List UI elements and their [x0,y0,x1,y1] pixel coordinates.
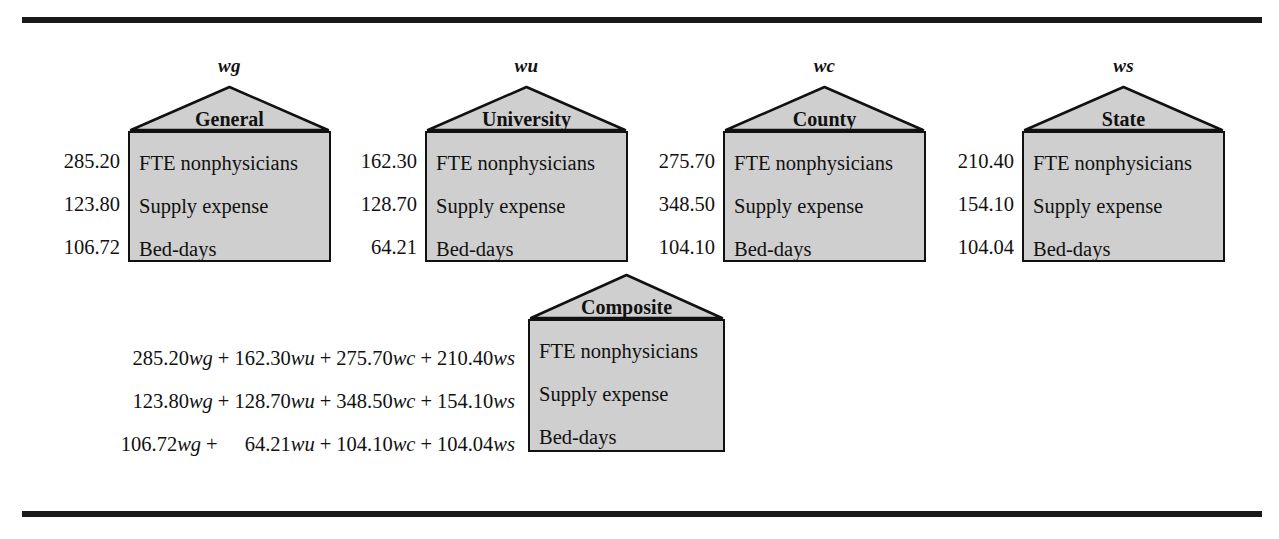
attr-row-beddays: Bed-days [436,228,626,271]
house-body-county: FTE nonphysicians Supply expense Bed-day… [723,131,926,262]
value-fte-general: 285.20 [20,140,120,183]
house-title-university: University [425,108,628,131]
eq-weight: wu [291,433,315,455]
eq-coef: 154.10 [437,390,493,412]
attr-row-beddays: Bed-days [139,228,329,271]
equation-beddays: 106.72wg+64.21wu+104.10wc+104.04ws [60,423,515,466]
eq-weight: ws [493,347,515,369]
value-supply-county: 348.50 [615,183,715,226]
house-general: wg General FTE nonphysicians Supply expe… [128,55,331,262]
figure-top-rule [22,17,1262,23]
attr-row-supply: Supply expense [734,185,924,228]
attr-row-supply: Supply expense [436,185,626,228]
attr-row-beddays: Bed-days [539,416,723,459]
house-state: ws State FTE nonphysicians Supply expens… [1022,55,1225,262]
house-body-general: FTE nonphysicians Supply expense Bed-day… [128,131,331,262]
value-fte-state: 210.40 [914,140,1014,183]
value-fte-university: 162.30 [317,140,417,183]
attr-row-beddays: Bed-days [1033,228,1223,271]
value-beddays-university: 64.21 [317,226,417,269]
value-beddays-general: 106.72 [20,226,120,269]
eq-weight: wg [189,390,213,412]
eq-coef: 348.50 [336,390,392,412]
value-supply-general: 123.80 [20,183,120,226]
eq-coef: 128.70 [234,390,290,412]
attr-row-beddays: Bed-days [734,228,924,271]
eq-coef: 162.30 [234,347,290,369]
eq-operator: + [315,390,337,412]
eq-weight: wc [393,390,416,412]
eq-weight: wu [291,347,315,369]
house-title-general: General [128,108,331,131]
eq-operator: + [201,433,223,455]
figure-bottom-rule [22,511,1262,517]
eq-weight: wg [177,433,201,455]
eq-weight: wu [291,390,315,412]
eq-weight: wc [393,433,416,455]
house-weight-label-wg: wg [128,55,331,77]
attr-row-supply: Supply expense [539,373,723,416]
eq-coef: 285.20 [133,347,189,369]
house-university: wu University FTE nonphysicians Supply e… [425,55,628,262]
value-column-university: 162.30 128.70 64.21 [317,140,417,269]
house-weight-label-ws: ws [1022,55,1225,77]
house-composite: Composite FTE nonphysicians Supply expen… [528,272,725,480]
value-fte-county: 275.70 [615,140,715,183]
attr-row-fte: FTE nonphysicians [436,142,626,185]
house-title-composite: Composite [528,296,725,319]
value-supply-state: 154.10 [914,183,1014,226]
eq-coef: 106.72 [121,433,177,455]
eq-coef: 104.04 [437,433,493,455]
eq-operator: + [415,347,437,369]
value-column-county: 275.70 348.50 104.10 [615,140,715,269]
eq-weight: ws [493,390,515,412]
house-county: wc County FTE nonphysicians Supply expen… [723,55,926,262]
attr-row-fte: FTE nonphysicians [139,142,329,185]
figure-frame: wg General FTE nonphysicians Supply expe… [0,0,1279,539]
eq-operator: + [213,390,235,412]
eq-coef: 275.70 [336,347,392,369]
attr-row-fte: FTE nonphysicians [1033,142,1223,185]
value-beddays-state: 104.04 [914,226,1014,269]
eq-operator: + [315,433,337,455]
value-beddays-county: 104.10 [615,226,715,269]
value-column-state: 210.40 154.10 104.04 [914,140,1014,269]
eq-coef: 64.21 [245,433,291,455]
house-weight-label-wc: wc [723,55,926,77]
eq-coef: 210.40 [437,347,493,369]
attr-row-supply: Supply expense [1033,185,1223,228]
eq-operator: + [315,347,337,369]
house-title-state: State [1022,108,1225,131]
value-supply-university: 128.70 [317,183,417,226]
composite-equations: 285.20wg+162.30wu+275.70wc+210.40ws 123.… [60,337,515,466]
value-column-general: 285.20 123.80 106.72 [20,140,120,269]
attr-row-fte: FTE nonphysicians [539,330,723,373]
attr-row-fte: FTE nonphysicians [734,142,924,185]
house-weight-label-wu: wu [425,55,628,77]
house-body-composite: FTE nonphysicians Supply expense Bed-day… [528,319,725,452]
attr-row-supply: Supply expense [139,185,329,228]
eq-coef: 104.10 [336,433,392,455]
equation-fte: 285.20wg+162.30wu+275.70wc+210.40ws [60,337,515,380]
equation-supply: 123.80wg+128.70wu+348.50wc+154.10ws [60,380,515,423]
eq-coef: 123.80 [133,390,189,412]
eq-weight: ws [493,433,515,455]
eq-operator: + [415,433,437,455]
eq-weight: wg [189,347,213,369]
eq-operator: + [213,347,235,369]
house-body-state: FTE nonphysicians Supply expense Bed-day… [1022,131,1225,262]
house-title-county: County [723,108,926,131]
house-body-university: FTE nonphysicians Supply expense Bed-day… [425,131,628,262]
eq-weight: wc [393,347,416,369]
eq-operator: + [415,390,437,412]
